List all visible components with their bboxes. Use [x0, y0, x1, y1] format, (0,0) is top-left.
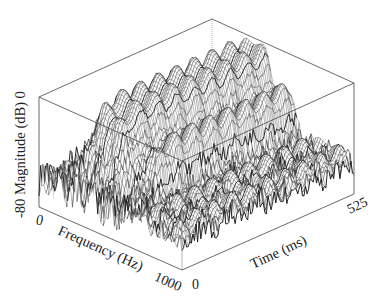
x-axis-tick-min: 0: [36, 214, 43, 228]
z-axis-label: -80 Magnitude (dB) 0: [13, 91, 28, 218]
y-axis-tick-min: 0: [192, 278, 199, 292]
surface-plot: [0, 0, 381, 303]
